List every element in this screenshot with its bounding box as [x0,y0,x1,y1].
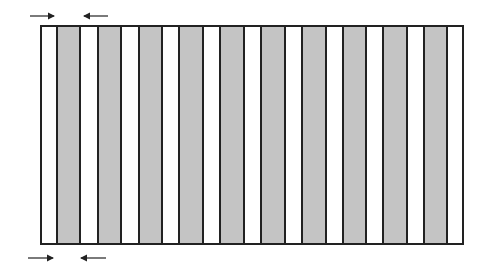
arrow-layer [0,0,490,270]
